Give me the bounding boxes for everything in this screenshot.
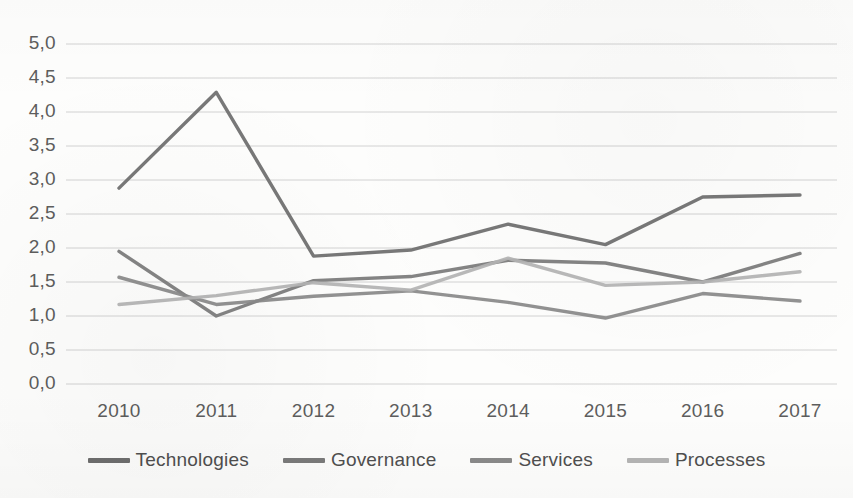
y-axis-tick-label: 1,5 — [4, 270, 56, 292]
y-axis-tick-label: 4,0 — [4, 100, 56, 122]
legend-line-swatch — [627, 458, 669, 463]
x-axis-tick-label: 2011 — [181, 400, 251, 422]
legend-item-processes[interactable]: Processes — [627, 449, 766, 471]
x-axis-tick-label: 2014 — [473, 400, 543, 422]
legend-line-swatch — [283, 458, 325, 463]
x-axis-tick-label: 2010 — [84, 400, 154, 422]
chart-legend: TechnologiesGovernanceServicesProcesses — [0, 449, 853, 471]
legend-line-swatch — [470, 458, 512, 463]
x-axis-tick-label: 2016 — [668, 400, 738, 422]
y-axis-tick-label: 1,0 — [4, 304, 56, 326]
y-axis-tick-label: 0,0 — [4, 372, 56, 394]
y-axis-tick-label: 5,0 — [4, 32, 56, 54]
legend-label: Services — [518, 449, 592, 471]
x-axis-tick-label: 2013 — [376, 400, 446, 422]
y-axis-tick-label: 2,0 — [4, 236, 56, 258]
legend-item-governance[interactable]: Governance — [283, 449, 437, 471]
legend-label: Processes — [675, 449, 766, 471]
series-line-technologies — [119, 92, 800, 256]
y-axis-tick-label: 0,5 — [4, 338, 56, 360]
legend-label: Governance — [331, 449, 437, 471]
x-axis-tick-label: 2015 — [570, 400, 640, 422]
y-axis-tick-label: 3,0 — [4, 168, 56, 190]
legend-item-services[interactable]: Services — [470, 449, 592, 471]
plot-area — [0, 0, 853, 498]
y-axis-tick-label: 3,5 — [4, 134, 56, 156]
x-axis-tick-label: 2017 — [765, 400, 835, 422]
x-axis-tick-label: 2012 — [279, 400, 349, 422]
y-axis-tick-label: 2,5 — [4, 202, 56, 224]
y-axis-tick-label: 4,5 — [4, 66, 56, 88]
line-chart: 0,00,51,01,52,02,53,03,54,04,55,0 201020… — [0, 0, 853, 498]
legend-item-technologies[interactable]: Technologies — [88, 449, 249, 471]
legend-label: Technologies — [136, 449, 249, 471]
legend-line-swatch — [88, 458, 130, 463]
